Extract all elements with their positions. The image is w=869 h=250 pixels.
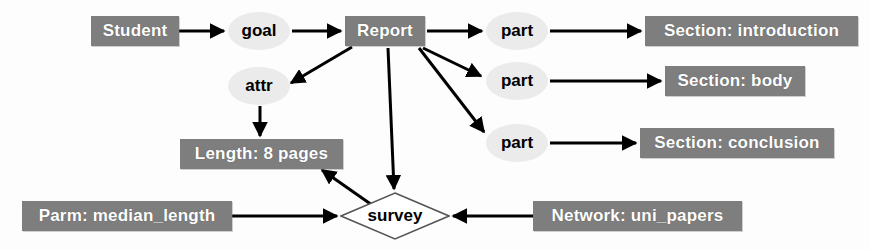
node-body[interactable]: Section: body [665, 66, 805, 96]
node-goal[interactable]: goal [228, 12, 290, 50]
node-conclusion[interactable]: Section: conclusion [640, 128, 834, 158]
node-attr[interactable]: attr [228, 67, 290, 105]
node-part1[interactable]: part [486, 12, 548, 50]
node-label-network: Network: uni_papers [552, 206, 724, 226]
node-label-intro: Section: introduction [664, 21, 839, 41]
node-label-parm: Parm: median_length [39, 206, 216, 226]
node-label-part2: part [501, 71, 533, 91]
node-intro[interactable]: Section: introduction [645, 16, 858, 46]
node-parm[interactable]: Parm: median_length [22, 201, 232, 231]
node-label-student: Student [103, 21, 168, 41]
node-label-conclusion: Section: conclusion [654, 133, 819, 153]
node-network[interactable]: Network: uni_papers [533, 201, 742, 231]
node-label-goal: goal [242, 21, 277, 41]
node-student[interactable]: Student [91, 16, 179, 46]
node-survey[interactable]: survey [340, 192, 450, 240]
node-label-length: Length: 8 pages [195, 144, 328, 164]
edge-report-to-survey [388, 48, 394, 189]
node-part2[interactable]: part [486, 62, 548, 100]
diagram-canvas: StudentgoalReportattrpartpartpartSection… [0, 0, 869, 250]
node-label-survey: survey [368, 206, 423, 226]
node-label-part3: part [501, 133, 533, 153]
node-length[interactable]: Length: 8 pages [180, 139, 343, 169]
node-label-part1: part [501, 21, 533, 41]
node-label-body: Section: body [678, 71, 793, 91]
node-label-report: Report [357, 21, 413, 41]
node-label-attr: attr [245, 76, 272, 96]
node-part3[interactable]: part [486, 124, 548, 162]
node-report[interactable]: Report [345, 16, 425, 46]
edge-report-to-attr [291, 47, 352, 83]
